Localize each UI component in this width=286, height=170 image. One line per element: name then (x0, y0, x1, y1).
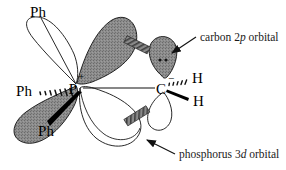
phosphorus-3d-lobe-upper (77, 17, 137, 84)
carbon-2p-annotation-after: orbital (246, 31, 279, 43)
phenyl-lobe-top-left (27, 17, 78, 84)
carbon-charge-label: − (168, 72, 174, 84)
phosphorus-charge-label: + (78, 70, 84, 82)
phosphorus-3d-annotation: phosphorus 3d orbital (179, 148, 279, 161)
carbon-2p-annotation-before: carbon 2 (200, 31, 240, 43)
phenyl-label-left: Ph (16, 83, 32, 99)
phosphorus-3d-annotation-after: orbital (246, 148, 279, 160)
hydrogen-bottom-label: H (193, 93, 204, 109)
hydrogen-top-label: H (192, 70, 203, 86)
carbon-2p-lobe-lower (148, 92, 172, 130)
carbon-atom-label: C (156, 81, 166, 97)
phosphorus-3d-annotation-before: phosphorus 3 (179, 148, 241, 161)
phenyl-label-top: Ph (30, 4, 46, 20)
carbon-2p-annotation: carbon 2p orbital (200, 31, 279, 44)
orbital-diagram-canvas: P + C − H H Ph Ph Ph carbon 2p orbital p… (0, 0, 286, 170)
phenyl-label-bottom: Ph (38, 123, 54, 139)
phosphorus-atom-label: P (69, 81, 77, 97)
orbital-diagram-figure: P + C − H H Ph Ph Ph carbon 2p orbital p… (0, 0, 286, 170)
phosphorus-3d-arrow (147, 140, 175, 154)
bond-c-h-wedge (166, 90, 189, 102)
